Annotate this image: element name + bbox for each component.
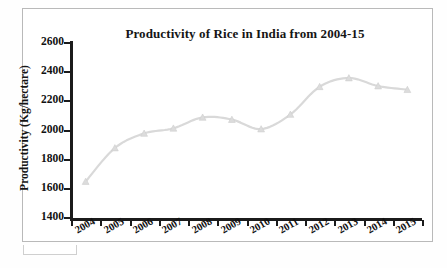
series-line-productivity [86,78,408,182]
chart-page: Productivity of Rice in India from 2004-… [0,0,447,268]
series-markers [82,75,411,185]
series-layer [0,0,447,268]
